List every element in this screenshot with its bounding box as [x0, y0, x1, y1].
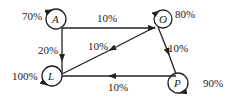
edge-o-p: 10% — [158, 27, 188, 74]
node-l: L 100% — [12, 66, 62, 86]
node-o: O 80% — [154, 8, 195, 28]
transition-diagram: A 70% O 80% L 100% P 90% 10% — [0, 0, 236, 103]
edge-p-l-label: 10% — [108, 81, 128, 93]
self-loop-a-label: 70% — [22, 10, 42, 22]
node-o-label: O — [159, 13, 167, 25]
self-loop-p-label: 90% — [203, 77, 223, 89]
node-p-label: P — [173, 77, 181, 89]
edge-a-l-label: 20% — [38, 44, 58, 56]
diagram-svg: A 70% O 80% L 100% P 90% 10% — [0, 0, 236, 103]
node-a-label: A — [51, 13, 59, 25]
self-loop-o-label: 80% — [175, 8, 195, 20]
node-l-label: L — [47, 70, 54, 82]
node-p: P 90% — [168, 73, 223, 93]
edge-a-o: 10% — [62, 12, 155, 28]
edge-p-l: 10% — [62, 76, 176, 93]
self-loop-l-label: 100% — [12, 70, 38, 82]
edge-o-l-label: 10% — [88, 40, 108, 52]
edge-o-p-label: 10% — [168, 42, 188, 54]
node-a: A 70% — [22, 9, 66, 29]
edge-a-o-label: 10% — [97, 12, 117, 24]
self-loop-arrow-icon — [44, 82, 47, 85]
edge-o-l: 10% — [62, 27, 155, 74]
